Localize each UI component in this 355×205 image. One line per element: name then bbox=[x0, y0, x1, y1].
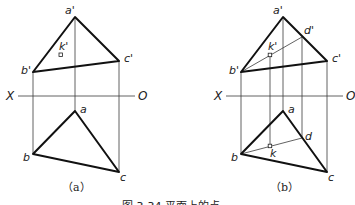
subfigure-label-a: （a） bbox=[62, 181, 91, 194]
axis-label-o: O bbox=[138, 89, 147, 103]
point-k-prime-marker bbox=[268, 53, 272, 57]
axis-label-x: X bbox=[5, 89, 15, 103]
diagram-canvas: X O a' b' c' k' a b c （a） X O a' b' c' d… bbox=[0, 0, 355, 205]
top-view-triangle bbox=[241, 111, 327, 172]
front-view-triangle bbox=[33, 17, 119, 72]
label-k-prime: k' bbox=[268, 40, 277, 53]
panel-b: X O a' b' c' d' k' a b c d k （b） bbox=[213, 4, 355, 194]
label-c: c bbox=[120, 171, 126, 184]
label-b-prime: b' bbox=[229, 64, 239, 77]
label-d: d bbox=[305, 130, 313, 143]
label-a-prime: a' bbox=[273, 4, 283, 17]
label-k-prime: k' bbox=[59, 40, 68, 53]
axis-label-x: X bbox=[213, 89, 223, 103]
label-b-prime: b' bbox=[21, 64, 31, 77]
label-b: b bbox=[23, 151, 30, 164]
label-b: b bbox=[231, 151, 238, 164]
label-c-prime: c' bbox=[124, 52, 133, 65]
label-a-prime: a' bbox=[65, 4, 75, 17]
subfigure-label-b: （b） bbox=[270, 181, 299, 194]
label-a: a bbox=[80, 103, 87, 116]
axis-label-o: O bbox=[346, 89, 355, 103]
top-view-triangle bbox=[33, 111, 119, 172]
panel-a: X O a' b' c' k' a b c （a） bbox=[5, 4, 147, 194]
label-c: c bbox=[328, 171, 334, 184]
point-k-prime-marker bbox=[59, 53, 63, 57]
figure-caption: 图 3-34 平面上的点 bbox=[122, 199, 220, 205]
label-d-prime: d' bbox=[304, 24, 314, 37]
label-k: k bbox=[270, 147, 277, 160]
label-c-prime: c' bbox=[332, 52, 341, 65]
label-a: a bbox=[288, 103, 295, 116]
front-view-triangle bbox=[241, 17, 327, 72]
